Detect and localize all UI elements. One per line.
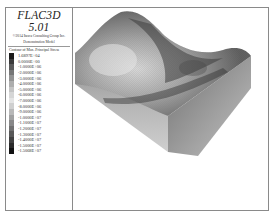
legend-label: -1.2000E+07: [18, 126, 41, 131]
legend-label: -1.0000E+07: [18, 115, 41, 120]
legend-label: -9.0000E+06: [18, 109, 41, 114]
model-label: Demonstration Model: [6, 40, 72, 44]
plot-frame: FLAC3D 5.01 ©2014 Itasca Consulting Grou…: [5, 7, 269, 211]
legend-label: -2.0000E+06: [18, 70, 41, 75]
model-viewport[interactable]: [73, 8, 268, 210]
legend-swatch: [9, 148, 14, 154]
legend-entry: -1.5068E+07: [9, 148, 72, 154]
legend-divider: [8, 46, 70, 47]
copyright-text: ©2014 Itasca Consulting Group Inc.: [6, 34, 72, 38]
legend-label: -1.1000E+07: [18, 120, 41, 125]
app-title: FLAC3D 5.01: [6, 9, 72, 33]
legend-label: -8.0000E+06: [18, 104, 41, 109]
legend-panel: FLAC3D 5.01 ©2014 Itasca Consulting Grou…: [6, 8, 73, 210]
contour-title: Contour of Max. Principal Stress: [9, 48, 72, 52]
legend-label: -6.0000E+06: [18, 92, 41, 97]
terrain-model: [73, 8, 270, 210]
legend-label: 0.0000E+00: [18, 59, 40, 64]
color-scale: 1.6897E+040.0000E+00-1.0000E+06-2.0000E+…: [9, 53, 72, 154]
legend-label: -3.0000E+06: [18, 76, 41, 81]
legend-label: -4.0000E+06: [18, 81, 41, 86]
legend-label: -7.0000E+06: [18, 98, 41, 103]
legend-label: -1.3000E+07: [18, 132, 41, 137]
legend-label: 1.6897E+04: [18, 53, 40, 58]
legend-label: -1.0000E+06: [18, 64, 41, 69]
legend-label: -1.4000E+07: [18, 137, 41, 142]
legend-label: -1.5000E+07: [18, 143, 41, 148]
legend-label: -1.5068E+07: [18, 148, 41, 153]
legend-label: -5.0000E+06: [18, 87, 41, 92]
